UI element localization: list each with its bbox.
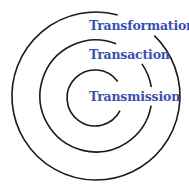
concentric-diagram: Transformation Transaction Transmission bbox=[0, 0, 189, 188]
label-transformation: Transformation bbox=[89, 20, 189, 33]
middle-ring-segment bbox=[142, 64, 151, 87]
label-transaction: Transaction bbox=[89, 49, 170, 62]
label-transmission: Transmission bbox=[89, 91, 180, 104]
